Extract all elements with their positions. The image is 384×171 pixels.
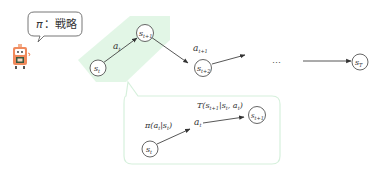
policy-label: 戦略 — [55, 17, 77, 31]
node-sT: sT — [352, 54, 368, 70]
node-st: st — [90, 60, 106, 76]
policy-symbol: π — [36, 18, 43, 31]
detail-node-st1: st+1 — [249, 107, 266, 124]
policy-bubble: π ： 戦略 — [28, 12, 82, 42]
node-st2: st+2 — [195, 60, 212, 77]
ellipsis: … — [272, 55, 281, 65]
detail-node-st: st — [142, 141, 158, 157]
transition-expression: T(st+1|st, at) — [197, 101, 243, 111]
label-a-t1: at+1 — [193, 43, 208, 54]
node-st1: st+1 — [137, 25, 154, 42]
policy-separator: ： — [44, 18, 55, 31]
mdp-diagram: π ： 戦略 st st+1 st+2 sT at at+1 … — [0, 0, 384, 171]
robot-icon — [13, 44, 30, 69]
edge-st2-next — [212, 55, 245, 64]
